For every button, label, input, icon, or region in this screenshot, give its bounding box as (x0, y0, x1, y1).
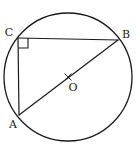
point-label-C: C (5, 27, 13, 38)
segment-CB (18, 38, 118, 40)
point-label-A: A (9, 119, 17, 130)
right-angle-marker-icon (18, 38, 28, 48)
diagram-canvas (0, 0, 137, 149)
geometry-figure: C B A O (0, 0, 137, 149)
point-label-B: B (122, 29, 130, 40)
segment-CA (18, 38, 19, 115)
center-tick-marker-icon (65, 74, 72, 81)
point-label-O: O (68, 82, 77, 93)
